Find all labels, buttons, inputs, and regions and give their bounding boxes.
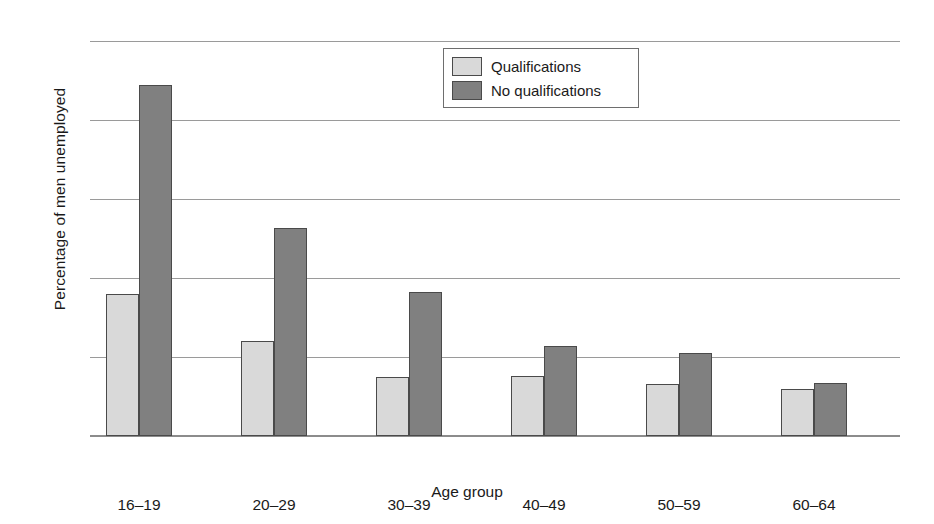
legend-label-no-qualifications: No qualifications <box>491 83 601 98</box>
x-axis-title: Age group <box>0 483 934 501</box>
bar-group <box>90 41 225 436</box>
y-axis-title: Percentage of men unemployed <box>51 34 69 364</box>
legend-swatch-icon-qualifications <box>452 57 482 76</box>
bar-group <box>225 41 360 436</box>
bar <box>139 85 172 436</box>
legend-entry-qualifications: Qualifications <box>452 54 630 78</box>
bar <box>106 294 139 436</box>
bar <box>814 383 847 436</box>
bar-group <box>765 41 900 436</box>
bar-group <box>630 41 765 436</box>
bar <box>781 389 814 436</box>
legend-label-qualifications: Qualifications <box>491 59 581 74</box>
bar <box>679 353 712 436</box>
bar <box>274 228 307 436</box>
bar <box>409 292 442 436</box>
bar <box>241 341 274 436</box>
bar <box>646 384 679 436</box>
bar <box>376 377 409 436</box>
bar-chart-figure: Percentage of men unemployed 01020304050… <box>0 0 934 524</box>
bar <box>511 376 544 436</box>
legend-swatch-icon-no-qualifications <box>452 81 482 100</box>
legend-entry-no-qualifications: No qualifications <box>452 78 630 102</box>
bar <box>544 346 577 436</box>
chart-legend: Qualifications No qualifications <box>443 48 639 108</box>
